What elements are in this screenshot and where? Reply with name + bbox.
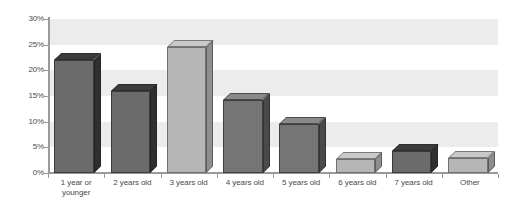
bar-front-face [167,47,206,173]
x-category-label: 1 year oryounger [48,178,104,198]
y-tick-label: 15% [0,91,44,100]
x-tick-mark [329,174,330,178]
bar-side-face [206,40,213,173]
bar [336,159,375,173]
bar [392,151,431,173]
bar [167,47,206,173]
bar [111,91,150,173]
y-tick-label: 0% [0,168,44,177]
y-tick-label: 20% [0,65,44,74]
bar-side-face [94,53,101,173]
x-category-label-line: 6 years old [329,178,385,188]
x-tick-mark [498,174,499,178]
x-category-label-line: 1 year or [48,178,104,188]
y-tick-label: 5% [0,142,44,151]
x-axis-category-labels: 1 year oryounger2 years old3 years old4 … [48,178,498,212]
bar-front-face [279,124,318,173]
bar [223,100,262,173]
x-tick-mark [161,174,162,178]
bar-side-face [150,84,157,173]
x-category-label-line: Other [442,178,498,188]
x-tick-mark [48,174,49,178]
x-category-label: 5 years old [273,178,329,188]
y-tick-label: 25% [0,40,44,49]
bar-side-face [319,117,326,173]
x-category-label: Other [442,178,498,188]
bar [448,158,487,173]
x-tick-mark [442,174,443,178]
bar-front-face [54,60,93,173]
x-category-label: 7 years old [386,178,442,188]
y-axis-labels: 0%5%10%15%20%25%30% [0,0,44,213]
x-category-label-line: 2 years old [104,178,160,188]
x-tick-mark [273,174,274,178]
x-tick-mark [217,174,218,178]
bar-front-face [392,151,431,173]
bar-front-face [448,158,487,173]
bar-front-face [223,100,262,173]
y-tick-label: 10% [0,117,44,126]
x-category-label: 3 years old [161,178,217,188]
x-category-label: 2 years old [104,178,160,188]
bar-side-face [431,144,438,173]
bars-layer [48,14,498,173]
x-category-label-line: 5 years old [273,178,329,188]
x-tick-mark [104,174,105,178]
bar-side-face [263,93,270,173]
bar [279,124,318,173]
x-category-label: 6 years old [329,178,385,188]
x-category-label-line: younger [48,188,104,198]
x-category-label-line: 3 years old [161,178,217,188]
x-category-label: 4 years old [217,178,273,188]
bar [54,60,93,173]
bar-front-face [336,159,375,173]
x-tick-mark [386,174,387,178]
x-category-label-line: 7 years old [386,178,442,188]
bar-chart: 0%5%10%15%20%25%30% 1 year oryounger2 ye… [0,0,506,213]
bar-front-face [111,91,150,173]
x-category-label-line: 4 years old [217,178,273,188]
y-tick-label: 30% [0,14,44,23]
